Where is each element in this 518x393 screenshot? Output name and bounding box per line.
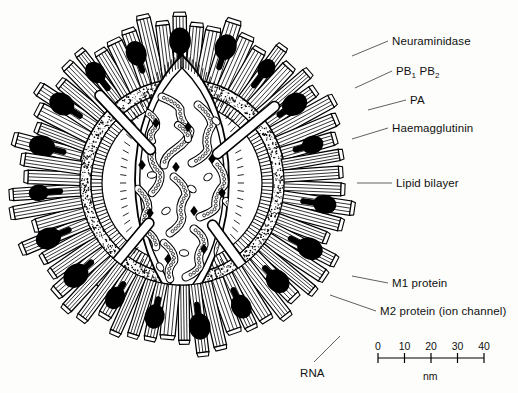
label-pa: PA — [410, 95, 425, 107]
label-neuraminidase: Neuraminidase — [392, 36, 471, 48]
label-m1-protein: M1 protein — [392, 278, 447, 290]
scale-tick-label-0: 0 — [372, 340, 384, 352]
label-m2-protein: M2 protein (ion channel) — [380, 306, 506, 318]
leader-line-m1-protein — [352, 276, 388, 283]
scale-tick-label-20: 20 — [425, 340, 437, 352]
scale-tick-label-10: 10 — [399, 340, 411, 352]
leader-line-pa — [368, 100, 406, 110]
figure-canvas: NeuraminidasePB1 PB2PAHaemagglutininLipi… — [0, 0, 518, 393]
label-lipid-bilayer: Lipid bilayer — [396, 178, 459, 190]
label-rna: RNA — [300, 368, 325, 380]
influenza-virus-diagram — [0, 0, 518, 393]
leader-line-haemagglutinin — [352, 128, 388, 139]
scale-bar — [378, 353, 484, 363]
leader-line-neuraminidase — [352, 41, 388, 56]
label-pb1pb2: PB1 PB2 — [396, 66, 440, 80]
scale-tick-label-40: 40 — [478, 340, 490, 352]
scale-unit-label: nm — [423, 370, 438, 382]
scale-tick-label-30: 30 — [452, 340, 464, 352]
leader-line-pb1pb2 — [355, 71, 392, 88]
leader-line-m2-protein — [330, 295, 376, 311]
leader-line-rna — [314, 336, 340, 362]
label-haemagglutinin: Haemagglutinin — [392, 123, 473, 135]
